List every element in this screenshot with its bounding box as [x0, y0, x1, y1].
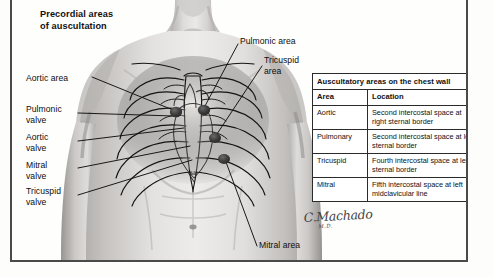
figure-title: Precordial areas of auscultation [40, 8, 170, 32]
navel [189, 225, 196, 230]
row-area-tricuspid: Tricuspid [313, 153, 368, 177]
illustration-root: Precordial areas of auscultation Aortic … [0, 0, 493, 277]
row-area-aortic: Aortic [313, 105, 368, 129]
table-row: Aortic Second intercostal space at right… [313, 105, 469, 129]
label-aortic-valve: Aortic valve [26, 132, 88, 153]
pulmonic-area-dot [198, 105, 210, 115]
row-area-pulmonary: Pulmonary [313, 129, 368, 153]
label-mitral-valve: Mitral valve [26, 160, 88, 181]
label-pulmonic-area: Pulmonic area [240, 36, 320, 47]
figure-frame: Precordial areas of auscultation Aortic … [10, 0, 468, 262]
table-row: Mitral Fifth intercostal space at left m… [313, 177, 469, 201]
column-header-area: Area [313, 89, 368, 105]
label-aortic-area: Aortic area [26, 73, 98, 84]
label-pulmonic-valve: Pulmonic valve [26, 104, 88, 125]
row-location-tricuspid: Fourth intercostal space at left sternal… [368, 153, 469, 177]
table-row: Tricuspid Fourth intercostal space at le… [313, 153, 469, 177]
aortic-area-dot [170, 107, 182, 117]
column-header-location: Location [368, 89, 469, 105]
mitral-area-dot [218, 154, 230, 164]
table-header-row: Area Location [313, 89, 469, 105]
table-row: Pulmonary Second intercostal space at le… [313, 129, 469, 153]
label-mitral-area: Mitral area [259, 240, 327, 251]
auscultatory-areas-table: Auscultatory areas on the chest wall Are… [312, 73, 468, 202]
table-title: Auscultatory areas on the chest wall [313, 74, 469, 90]
row-location-aortic: Second intercostal space at right sterna… [368, 105, 469, 129]
row-location-mitral: Fifth intercostal space at left midclavi… [368, 177, 469, 201]
table-title-row: Auscultatory areas on the chest wall [313, 74, 469, 90]
tricuspid-area-dot [209, 133, 221, 143]
row-area-mitral: Mitral [313, 177, 368, 201]
label-tricuspid-valve: Tricuspid valve [26, 186, 88, 207]
row-location-pulmonary: Second intercostal space at left sternal… [368, 129, 469, 153]
artist-signature: C.Machado M.D. [303, 206, 373, 230]
